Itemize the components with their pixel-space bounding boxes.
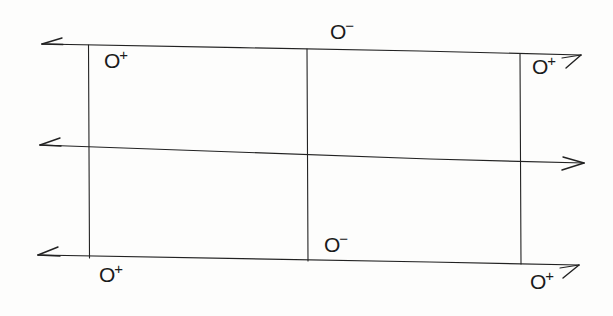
diagram-canvas: O+ O− O+ O− O+ O+ (0, 0, 613, 316)
right-rail (520, 54, 521, 264)
plus-icon: + (114, 258, 123, 279)
circle-icon: O (99, 264, 115, 285)
circle-icon: O (532, 56, 548, 77)
charge-bottom-right-positive: O+ (530, 265, 554, 292)
circle-icon: O (330, 21, 346, 42)
charge-top-left-positive: O+ (104, 44, 128, 71)
diagram-linework (0, 0, 613, 316)
plus-icon: + (545, 265, 554, 286)
charge-top-right-positive: O+ (532, 50, 556, 77)
left-rail (89, 45, 90, 258)
middle-axis-line (40, 138, 584, 170)
minus-icon: − (339, 228, 348, 249)
circle-icon: O (104, 50, 120, 71)
charge-bottom-center-negative: O− (324, 228, 348, 255)
plus-icon: + (547, 50, 556, 71)
minus-icon: − (345, 15, 354, 36)
charge-bottom-left-positive: O+ (99, 258, 123, 285)
charge-top-center-negative: O− (330, 15, 354, 42)
circle-icon: O (530, 271, 546, 292)
center-rail (307, 49, 308, 261)
plus-icon: + (119, 44, 128, 65)
circle-icon: O (324, 234, 340, 255)
